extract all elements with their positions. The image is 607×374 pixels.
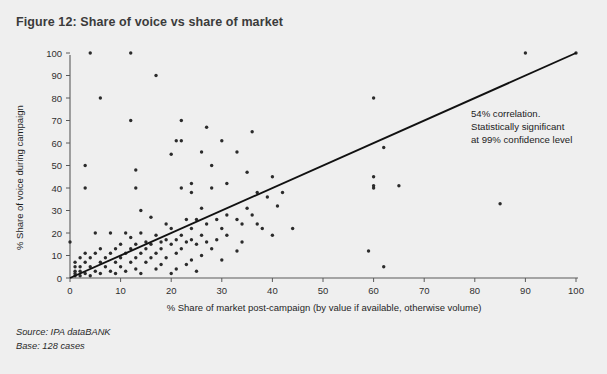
data-point [73,261,76,264]
data-point [109,270,112,273]
data-point [185,240,188,243]
data-point [220,139,223,142]
data-point [180,139,183,142]
data-point [139,209,142,212]
y-tick-label: 90 [51,70,62,81]
data-point [271,175,274,178]
y-tick-label: 10 [51,250,62,261]
data-point [83,261,86,264]
data-point [83,252,86,255]
data-point [109,231,112,234]
data-point [210,247,213,250]
base-note: Base: 128 cases [16,341,85,351]
y-tick-label: 0 [57,273,62,284]
data-point [134,168,137,171]
data-point [99,96,102,99]
data-point [104,265,107,268]
data-point [271,234,274,237]
data-point [291,227,294,230]
data-point [185,218,188,221]
data-point [372,175,375,178]
data-point [235,218,238,221]
data-point [154,74,157,77]
data-point [99,247,102,250]
data-point [68,240,71,243]
data-point [114,247,117,250]
data-point [382,265,385,268]
data-point [200,207,203,210]
data-point [129,119,132,122]
data-point [367,249,370,252]
data-point [190,191,193,194]
data-point [205,240,208,243]
data-point [261,227,264,230]
data-point [124,231,127,234]
data-point [89,274,92,277]
data-point [210,186,213,189]
y-tick-label: 50 [51,160,62,171]
data-point [225,234,228,237]
data-point [180,186,183,189]
y-tick-label: 70 [51,115,62,126]
data-point [205,126,208,129]
data-point [109,252,112,255]
data-point [89,51,92,54]
data-point [94,231,97,234]
data-point [382,146,385,149]
data-point [149,256,152,259]
data-point [235,249,238,252]
y-axis-ticks: 0102030405060708090100 [46,48,70,284]
data-point [256,222,259,225]
data-point [524,51,527,54]
x-tick-label: 80 [470,285,481,296]
data-point [170,272,173,275]
x-tick-label: 70 [419,285,430,296]
data-point [266,195,269,198]
data-point [104,256,107,259]
data-point [170,227,173,230]
data-point [154,267,157,270]
data-point [94,252,97,255]
y-tick-label: 60 [51,138,62,149]
data-point [119,243,122,246]
data-point [220,227,223,230]
data-point [164,256,167,259]
annotation-line-2: Statistically significant [471,121,565,132]
data-point [281,191,284,194]
data-point [190,182,193,185]
data-point [215,218,218,221]
data-point [205,222,208,225]
data-point [245,171,248,174]
x-tick-label: 40 [267,285,278,296]
data-point [235,150,238,153]
data-point [180,119,183,122]
data-point [195,270,198,273]
data-point [170,243,173,246]
x-tick-label: 10 [115,285,126,296]
data-point [83,186,86,189]
data-point [134,267,137,270]
data-point [83,164,86,167]
data-point [99,272,102,275]
data-point [200,150,203,153]
data-point [276,204,279,207]
data-point [175,139,178,142]
data-point [129,261,132,264]
data-point [185,263,188,266]
data-point [225,182,228,185]
data-point [114,272,117,275]
data-point [250,130,253,133]
data-point [78,265,81,268]
data-point [397,184,400,187]
data-point [134,243,137,246]
data-point [119,265,122,268]
data-point [139,252,142,255]
data-point [94,270,97,273]
annotation-line-1: 54% correlation. [471,108,540,119]
data-point [240,240,243,243]
data-point [372,186,375,189]
data-point [164,238,167,241]
data-point [200,234,203,237]
data-point [245,207,248,210]
data-point [129,51,132,54]
